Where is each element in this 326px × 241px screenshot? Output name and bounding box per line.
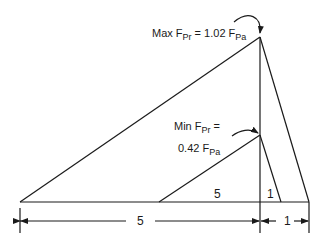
min-label-value: 0.42 F: [178, 142, 209, 154]
min-label-equals: =: [211, 120, 220, 132]
min-pointer-arrow: [232, 130, 258, 136]
dim-left-span-label: 5: [135, 215, 146, 227]
small-right-label: 1: [267, 188, 274, 200]
max-label-sub-pr: Pr: [183, 32, 192, 42]
large-triangle-right-side: [260, 37, 309, 202]
max-force-label: Max FPr = 1.02 FPa: [152, 28, 246, 39]
max-label-mid: = 1.02 F: [192, 27, 236, 39]
large-triangle-hypotenuse: [20, 37, 260, 202]
min-label-sub-pa: Pa: [209, 147, 220, 157]
dim-arrowhead-mid: [261, 218, 269, 224]
min-label-prefix: Min F: [174, 120, 202, 132]
small-base-label: 5: [214, 188, 221, 200]
min-force-label-line2: 0.42 FPa: [178, 143, 220, 154]
min-force-label-line1: Min FPr =: [174, 121, 220, 132]
min-label-sub-pr: Pr: [202, 125, 211, 135]
dim-arrowhead-left: [20, 218, 28, 224]
max-label-prefix: Max F: [152, 27, 183, 39]
max-label-sub-pa: Pa: [235, 32, 246, 42]
dim-right-span-label: 1: [282, 215, 293, 227]
